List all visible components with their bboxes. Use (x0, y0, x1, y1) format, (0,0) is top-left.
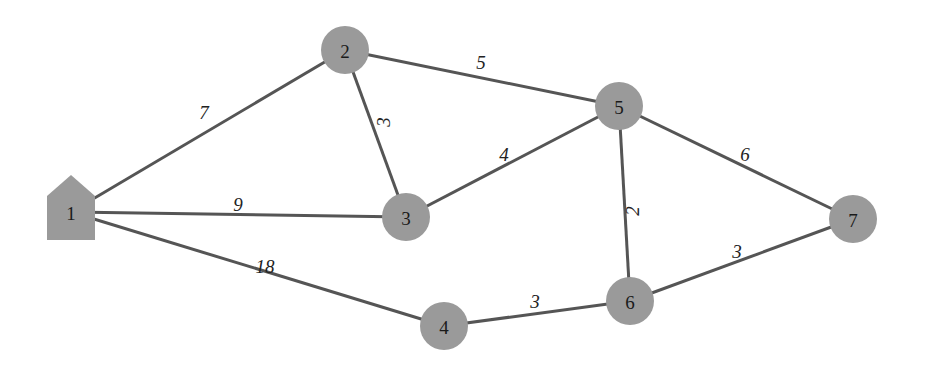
node-label: 2 (340, 41, 350, 62)
node-1: 1 (47, 175, 95, 240)
edge-2-3 (345, 50, 406, 217)
edge-weight-label: 9 (233, 194, 243, 215)
edge-weight-label: 3 (373, 117, 394, 128)
edge-weight-label: 5 (476, 52, 486, 73)
node-label: 1 (66, 203, 76, 224)
edge-1-2 (71, 50, 345, 212)
node-label: 7 (848, 210, 858, 231)
node-5: 5 (595, 82, 643, 130)
edge-5-6 (619, 106, 630, 301)
network-diagram: 79183543263 1234567 (0, 0, 927, 368)
node-6: 6 (606, 277, 654, 325)
node-label: 3 (401, 208, 411, 229)
edge-weight-label: 7 (199, 102, 210, 123)
node-7: 7 (829, 195, 877, 243)
node-label: 6 (625, 292, 635, 313)
edges-layer (71, 50, 853, 326)
node-3: 3 (382, 193, 430, 241)
edge-weight-label: 18 (256, 256, 276, 277)
node-4: 4 (420, 302, 468, 350)
edge-5-7 (619, 106, 853, 219)
node-label: 4 (439, 317, 449, 338)
edge-weight-label: 2 (622, 206, 643, 216)
edge-weight-label: 6 (740, 144, 750, 165)
edge-weight-label: 4 (499, 144, 509, 165)
node-2: 2 (321, 26, 369, 74)
edge-weight-label: 3 (731, 241, 742, 262)
node-label: 5 (614, 97, 624, 118)
edge-weight-label: 3 (529, 291, 540, 312)
edge-3-5 (406, 106, 619, 217)
